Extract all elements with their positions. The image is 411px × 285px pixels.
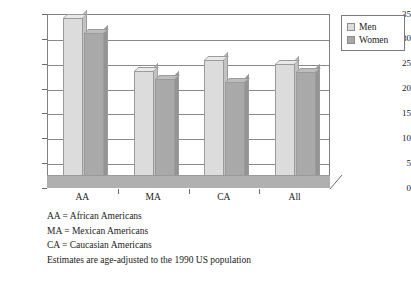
y-tick-label: 5 [395, 159, 411, 168]
legend-item-women[interactable]: Women [347, 33, 400, 46]
y-tick-label: 10 [395, 134, 411, 143]
y-tick-label: 15 [395, 109, 411, 118]
caption-line: AA = African Americans [47, 209, 397, 224]
legend[interactable]: Men Women [341, 15, 405, 51]
x-tick-mark [259, 189, 260, 194]
x-tick-mark [118, 189, 119, 194]
bar-ca-women [225, 82, 245, 187]
bar-all-men [275, 64, 295, 187]
legend-label-women: Women [359, 35, 388, 45]
x-tick-label: AA [52, 192, 112, 202]
bar-aa-women [84, 33, 104, 187]
bar-front-face [296, 72, 316, 187]
x-tick-label: MA [123, 192, 183, 202]
legend-item-men[interactable]: Men [347, 20, 400, 33]
y-tick-label: 0 [395, 184, 411, 193]
caption-line: MA = Mexican Americans [47, 224, 397, 239]
y-tick-label: 20 [395, 84, 411, 93]
y-tick-label: 25 [395, 59, 411, 68]
legend-swatch-women-icon [347, 36, 355, 44]
chart-figure: Prevalence (%) 05101520253035 AAMACAAll … [0, 0, 411, 285]
chart-floor-3d [47, 175, 330, 188]
axis-diagonal-line [329, 174, 344, 190]
bar-all-women [296, 72, 316, 187]
bar-front-face [225, 82, 245, 187]
bar-side-face [175, 71, 179, 183]
legend-swatch-men-icon [347, 23, 355, 31]
bar-ma-men [134, 71, 154, 187]
legend-label-men: Men [359, 22, 376, 32]
plot-area [47, 14, 330, 188]
bar-side-face [245, 74, 249, 183]
x-tick-label: CA [194, 192, 254, 202]
caption-line: CA = Caucasian Americans [47, 238, 397, 253]
bar-ca-men [204, 60, 224, 187]
bar-front-face [204, 60, 224, 187]
bar-front-face [275, 64, 295, 187]
x-tick-label: All [265, 192, 325, 202]
bar-side-face [104, 25, 108, 183]
caption-line: Estimates are age-adjusted to the 1990 U… [47, 253, 397, 268]
x-tick-mark [189, 189, 190, 194]
bar-side-face [316, 64, 320, 183]
bar-front-face [63, 18, 83, 187]
bar-front-face [155, 79, 175, 187]
bar-front-face [84, 33, 104, 187]
bar-aa-men [63, 18, 83, 187]
bar-ma-women [155, 79, 175, 187]
y-tick-mark [42, 188, 47, 189]
caption-block: AA = African Americans MA = Mexican Amer… [47, 209, 397, 267]
bar-front-face [134, 71, 154, 187]
